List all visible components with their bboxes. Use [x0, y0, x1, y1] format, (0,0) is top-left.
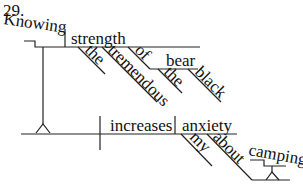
word-increases: increases — [110, 116, 172, 135]
word-black: black — [191, 62, 231, 102]
word-camping: camping — [247, 140, 303, 169]
word-about: about — [209, 127, 249, 167]
sentence-diagram: 29. Knowing strength the tremendous of b… — [0, 0, 303, 194]
stilt-triangle-2 — [266, 172, 279, 180]
stilt-triangle — [36, 124, 50, 133]
word-knowing: Knowing — [2, 9, 68, 37]
